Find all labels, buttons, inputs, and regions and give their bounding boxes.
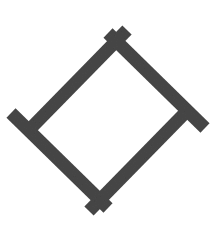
figure-container: Figure B bbox=[0, 0, 216, 241]
figure-diagram-canvas bbox=[0, 0, 216, 241]
